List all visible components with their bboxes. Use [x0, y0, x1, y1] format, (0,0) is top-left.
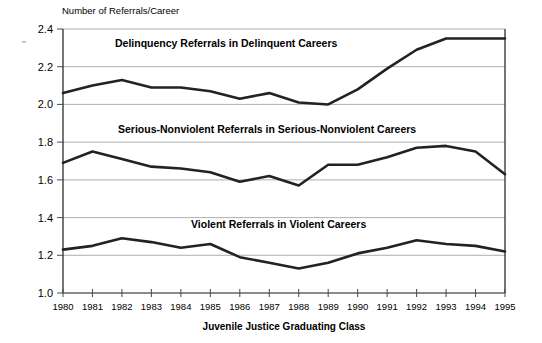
x-tick-label: 1980	[52, 301, 73, 312]
x-tick-label: 1988	[288, 301, 309, 312]
series-label-delinquency: Delinquency Referrals in Delinquent Care…	[115, 37, 337, 49]
x-tick-label: 1995	[494, 301, 515, 312]
y-tick-label: 1.6	[38, 174, 53, 186]
y-tick-label: 2.0	[38, 98, 53, 110]
x-tick-label: 1989	[318, 301, 339, 312]
x-tick-label: 1993	[435, 301, 456, 312]
chart-background	[0, 0, 542, 343]
chart-container: Number of Referrals/Career	[0, 0, 542, 343]
series-label-violent: Violent Referrals in Violent Careers	[191, 218, 366, 230]
x-axis-title: Juvenile Justice Graduating Class	[203, 321, 366, 332]
x-tick-label: 1987	[259, 301, 280, 312]
y-tick-label: 1.4	[38, 212, 53, 224]
x-tick-label: 1991	[377, 301, 398, 312]
x-tick-label: 1994	[465, 301, 486, 312]
y-axis-title: Number of Referrals/Career	[62, 5, 179, 16]
x-tick-label: 1982	[111, 301, 132, 312]
y-tick-label: 2.2	[38, 61, 53, 73]
y-tick-label: 2.4	[38, 23, 53, 35]
x-tick-label: 1981	[82, 301, 103, 312]
line-chart: Number of Referrals/Career	[0, 0, 542, 343]
x-tick-label: 1985	[200, 301, 221, 312]
x-tick-label: 1986	[229, 301, 250, 312]
y-tick-label: 1.0	[38, 287, 53, 299]
scan-artifact-speck	[22, 41, 26, 43]
x-tick-label: 1983	[141, 301, 162, 312]
series-label-serious-nonviolent: Serious-Nonviolent Referrals in Serious-…	[118, 123, 416, 135]
y-tick-label: 1.2	[38, 249, 53, 261]
x-tick-label: 1990	[347, 301, 368, 312]
x-tick-label: 1984	[170, 301, 191, 312]
y-tick-label: 1.8	[38, 136, 53, 148]
x-tick-label: 1992	[406, 301, 427, 312]
